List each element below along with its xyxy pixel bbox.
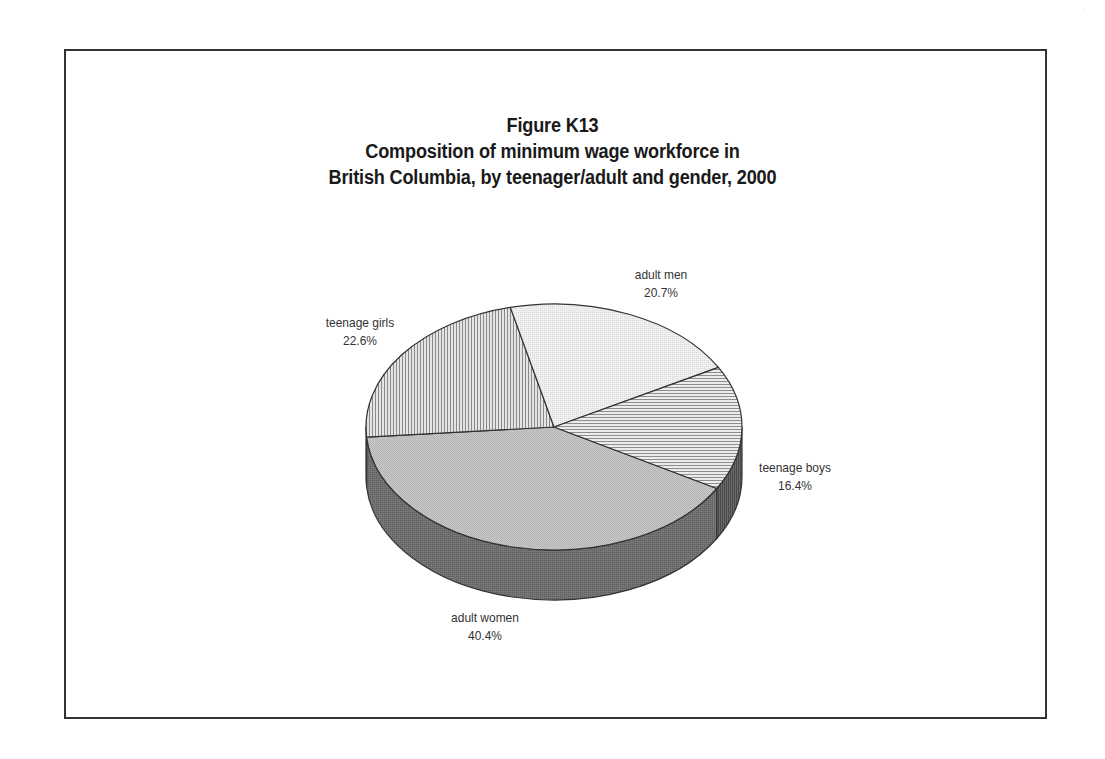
- label-adult-women-pct: 40.4%: [434, 627, 535, 645]
- label-adult-men-name: adult men: [610, 266, 711, 284]
- label-teenage-girls-name: teenage girls: [305, 314, 415, 332]
- label-adult-men: adult men 20.7%: [610, 266, 711, 302]
- label-teenage-boys-pct: 16.4%: [744, 477, 845, 495]
- label-adult-men-pct: 20.7%: [610, 284, 711, 302]
- label-teenage-girls-pct: 22.6%: [305, 332, 415, 350]
- pie-top-face: [366, 304, 742, 550]
- label-adult-women-name: adult women: [434, 609, 535, 627]
- label-teenage-boys: teenage boys 16.4%: [744, 459, 845, 495]
- label-teenage-girls: teenage girls 22.6%: [305, 314, 415, 350]
- label-adult-women: adult women 40.4%: [434, 609, 535, 645]
- label-teenage-boys-name: teenage boys: [744, 459, 845, 477]
- pie-chart: [0, 0, 1105, 759]
